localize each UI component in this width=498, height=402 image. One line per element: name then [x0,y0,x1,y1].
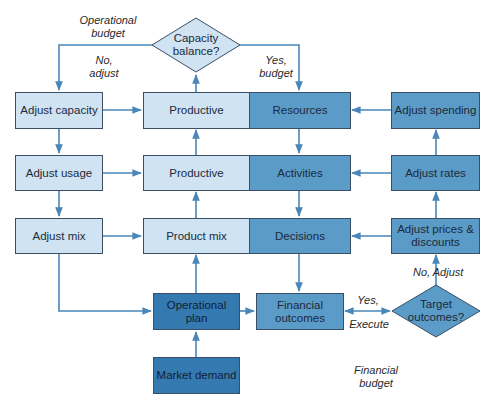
financial-budget-label: Financial budget [348,364,404,390]
product-mix-box: Product mix [143,218,250,254]
execute-label: Execute [344,318,394,331]
adjust-mix-box: Adjust mix [15,218,103,254]
operational-budget-label: Operational budget [64,14,152,40]
capacity-balance-label: Capacity balance? [158,32,234,58]
target-outcomes-label: Target outcomes? [402,298,470,324]
productive-top-box: Productive [143,92,250,129]
market-demand-box: Market demand [153,357,240,394]
adjust-usage-box: Adjust usage [15,155,103,191]
operational-plan-box: Operational plan [153,293,240,330]
adjust-rates-box: Adjust rates [391,155,480,191]
decisions-box: Decisions [249,218,351,254]
activities-box: Activities [249,155,351,191]
adjust-capacity-box: Adjust capacity [15,92,103,129]
financial-outcomes-box: Financial outcomes [256,293,344,330]
yes-budget-label: Yes, budget [258,54,294,80]
connector-arrows [0,0,498,402]
no-adjust-left-label: No, adjust [88,54,120,80]
productive-mid-box: Productive [143,155,250,191]
adjust-prices-box: Adjust prices & discounts [391,218,480,254]
yes-label: Yes, [353,294,383,307]
adjust-spending-box: Adjust spending [391,92,480,129]
no-adjust-right-label: No, Adjust [413,266,483,279]
resources-box: Resources [249,92,351,129]
